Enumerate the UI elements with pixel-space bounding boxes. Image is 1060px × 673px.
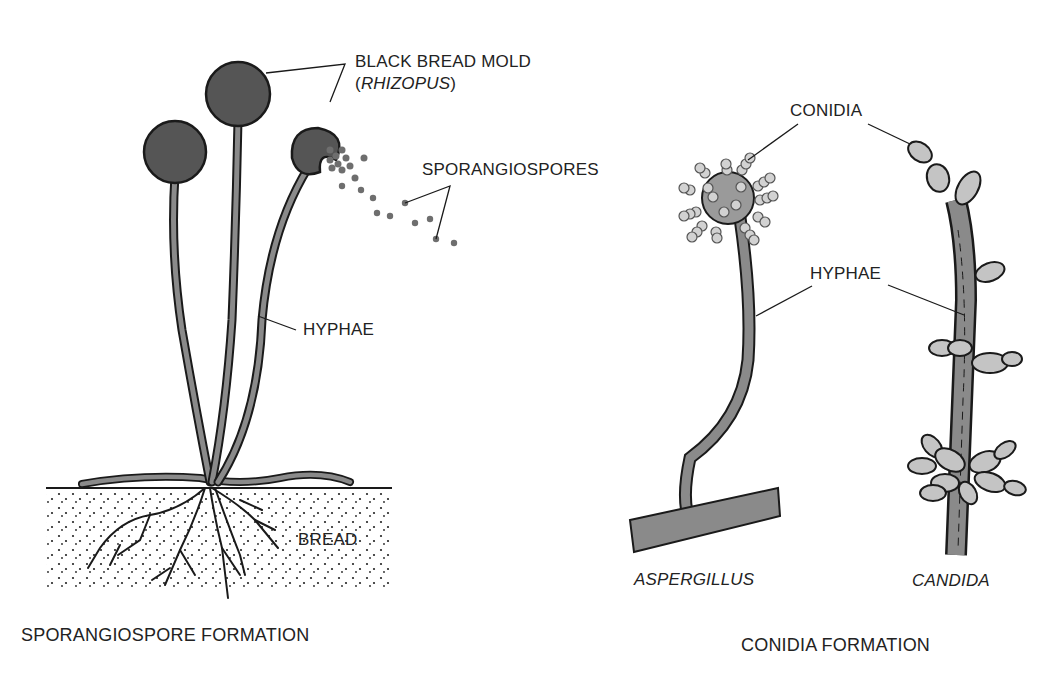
- label-rhizopus: (RHIZOPUS): [355, 74, 456, 94]
- left-leader-lines: [258, 64, 450, 330]
- label-hyphae-left: HYPHAE: [303, 320, 374, 340]
- aspergillus-stalk: [685, 218, 749, 516]
- label-black-bread-mold: BLACK BREAD MOLD: [355, 52, 531, 72]
- caption-sporangiospore-formation: SPORANGIOSPORE FORMATION: [21, 625, 310, 646]
- sporangia: [144, 62, 339, 183]
- caption-conidia-formation: CONIDIA FORMATION: [741, 635, 930, 656]
- aspergillus-base-hypha: [630, 488, 780, 552]
- fungal-spore-formation-diagram: BLACK BREAD MOLD (RHIZOPUS) SPORANGIOSPO…: [0, 0, 1060, 673]
- label-bread: BREAD: [298, 530, 358, 550]
- label-candida: CANDIDA: [912, 571, 990, 591]
- paren-close: ): [450, 74, 456, 93]
- genus-rhizopus: RHIZOPUS: [361, 74, 450, 93]
- label-sporangiospores: SPORANGIOSPORES: [422, 160, 599, 180]
- label-hyphae-right: HYPHAE: [810, 264, 881, 284]
- label-aspergillus: ASPERGILLUS: [634, 570, 754, 590]
- label-conidia: CONIDIA: [790, 101, 862, 121]
- illustration: [0, 0, 1060, 673]
